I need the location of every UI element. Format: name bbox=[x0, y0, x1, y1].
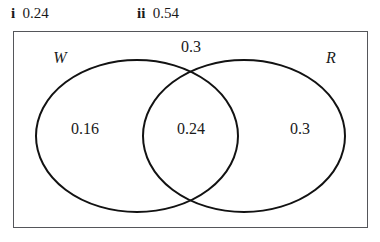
region-value-right-only: 0.3 bbox=[290, 120, 310, 138]
region-value-outside: 0.3 bbox=[181, 38, 201, 56]
set-ellipse-left bbox=[36, 60, 238, 212]
region-value-intersection: 0.24 bbox=[177, 120, 205, 138]
set-ellipse-right bbox=[143, 60, 345, 212]
set-label-left: W bbox=[53, 49, 66, 67]
region-value-left-only: 0.16 bbox=[71, 120, 99, 138]
set-label-right: R bbox=[326, 49, 336, 67]
venn-diagram-figure: i0.24 ii0.54 W R 0.3 0.16 0.24 0.3 bbox=[0, 0, 380, 242]
